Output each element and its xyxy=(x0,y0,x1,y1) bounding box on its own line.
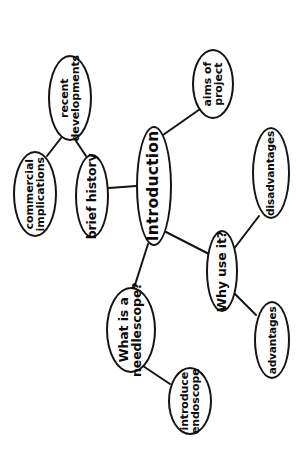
node-what-is-a-needlescope[interactable]: What is a needlescope? xyxy=(106,287,156,373)
edge-why-use-it-to-disadvantages xyxy=(233,216,259,250)
node-commercial-implications[interactable]: commercial implications xyxy=(13,151,57,237)
edge-introduction-to-why-use-it xyxy=(166,232,209,254)
node-recent-developments[interactable]: recent developments xyxy=(48,55,92,141)
edge-introduction-to-brief-history xyxy=(109,186,136,188)
node-brief-history[interactable]: brief history xyxy=(75,154,109,238)
node-introduction[interactable]: Introduction xyxy=(136,126,172,246)
edge-introduction-to-aims-of-project xyxy=(163,107,203,135)
node-disadvantages[interactable]: disadvantages xyxy=(252,127,290,219)
node-label-brief-history: brief history xyxy=(86,153,99,239)
mind-map-canvas: Introductionaims of projectWhy use it?di… xyxy=(0,0,303,455)
node-label-what-is-a-needlescope: What is a needlescope? xyxy=(118,283,144,377)
node-label-introduction: Introduction xyxy=(146,131,162,242)
node-label-recent-developments: recent developments xyxy=(59,55,81,142)
node-label-introduce-endoscope: introduce endoscope xyxy=(179,368,201,434)
node-label-advantages: advantages xyxy=(267,306,278,374)
node-label-aims-of-project: aims of project xyxy=(202,62,224,107)
node-why-use-it[interactable]: Why use it? xyxy=(206,230,238,312)
edge-why-use-it-to-advantages xyxy=(233,292,256,315)
node-label-commercial-implications: commercial implications xyxy=(24,157,46,231)
node-label-why-use-it: Why use it? xyxy=(216,231,229,312)
edge-what-is-a-needlescope-to-introduce-endoscope xyxy=(143,366,170,384)
node-introduce-endoscope[interactable]: introduce endoscope xyxy=(168,367,212,435)
edge-introduction-to-what-is-a-needlescope xyxy=(134,244,148,288)
node-aims-of-project[interactable]: aims of project xyxy=(192,49,234,119)
node-label-disadvantages: disadvantages xyxy=(266,130,277,215)
node-advantages[interactable]: advantages xyxy=(254,301,290,379)
